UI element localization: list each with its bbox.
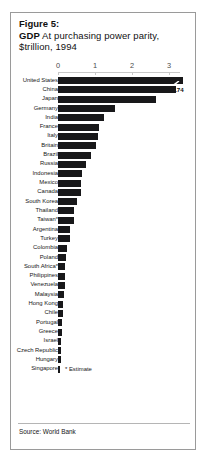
category-label: Indonesia [0,169,58,178]
bar-row: France [11,123,197,132]
category-label: Turkey [0,234,58,243]
bar [58,301,63,308]
bar-row: Hong Kong [11,300,197,309]
category-label: India [0,113,58,122]
bar-row: Philippines [11,272,197,281]
bar [58,207,74,214]
bar [58,189,81,196]
category-label: Britain [0,141,58,150]
category-label: Argentina [0,225,58,234]
bar [58,152,91,159]
figure-title-block: Figure 5: GDP At purchasing power parity… [19,18,191,53]
figure-title: GDP At purchasing power parity, [19,30,191,42]
category-label: South Africa* [0,262,58,271]
bar-plot: United States6.74ChinaJapanGermanyIndiaF… [11,76,197,374]
x-tick-mark-3 [169,72,170,75]
x-tick-label-2: 2 [130,61,134,70]
category-label: China [0,85,58,94]
bar-row: India [11,113,197,122]
category-label: Portugal [0,318,58,327]
category-label: Philippines [0,271,58,280]
bar [58,273,65,280]
source-divider [18,423,190,424]
bar-row: Canada [11,188,197,197]
x-axis: 0123 [11,61,197,75]
x-tick-mark-0 [58,72,59,75]
figure-title-rest: At purchasing power parity, [42,30,159,41]
bar [58,291,64,298]
category-label: Russia [0,159,58,168]
bar [58,124,99,131]
bar [58,161,86,168]
category-label: Colombia [0,243,58,252]
x-tick-label-1: 1 [93,61,97,70]
bar-row: United States6.74 [11,76,197,85]
category-label: Singapore [0,364,58,373]
bar-row: Colombia [11,244,197,253]
bar-row: Venezuela [11,281,197,290]
bar [58,329,62,336]
estimate-note: * Estimate [65,366,92,372]
figure-subtitle: $trillion, 1994 [19,41,191,53]
bar-row: Italy [11,132,197,141]
bar-row: Chile [11,309,197,318]
bar-row: Mexico [11,178,197,187]
category-label: Venezuela [0,280,58,289]
category-label: Mexico [0,178,58,187]
bar [58,254,66,261]
bar-row: Malaysia [11,290,197,299]
x-tick-label-3: 3 [167,61,171,70]
bar-row: Poland [11,253,197,262]
bar-row: Greece [11,327,197,336]
bar-row: Portugal [11,318,197,327]
bar [58,226,70,233]
bar [58,180,81,187]
bar-row: Israel [11,337,197,346]
figure-panel: Figure 5: GDP At purchasing power parity… [10,12,196,450]
bar [58,310,63,317]
category-label: Japan [0,94,58,103]
bar [58,86,176,93]
axis-break-marker [173,76,182,85]
bar-row: Hungary [11,355,197,364]
bar-row: Britain [11,141,197,150]
category-label: Poland [0,253,58,262]
category-label: Canada [0,187,58,196]
bar [58,338,61,345]
bar [58,319,62,326]
bar-row: Russia [11,160,197,169]
category-label: Hong Kong [0,299,58,308]
bar [58,198,77,205]
bar-row: Argentina [11,225,197,234]
x-axis-line [58,72,180,73]
category-label: Israel [0,336,58,345]
bar [58,170,82,177]
category-label: Italy [0,131,58,140]
category-label: United States [0,76,58,85]
x-tick-label-0: 0 [56,61,60,70]
category-label: Czech Republic [0,346,58,355]
bar [58,133,98,140]
bar [58,356,61,363]
source-label: Source: World Bank [19,428,76,435]
category-label: Brazil [0,150,58,159]
category-label: France [0,122,58,131]
x-tick-mark-1 [95,72,96,75]
figure-title-strong: GDP [19,30,40,41]
bar-row: Turkey [11,234,197,243]
x-tick-mark-2 [132,72,133,75]
bar-row: Czech Republic [11,346,197,355]
bar-row: Singapore [11,365,197,374]
bar-row: Thailand [11,206,197,215]
category-label: Germany [0,104,58,113]
bar [58,366,60,373]
bar-row: South Korea [11,197,197,206]
bar [58,347,61,354]
bar [58,282,65,289]
bar-row: Taiwan* [11,216,197,225]
bar-row: Indonesia [11,169,197,178]
category-label: Thailand [0,206,58,215]
category-label: South Korea [0,197,58,206]
bar [58,96,156,103]
category-label: Taiwan* [0,215,58,224]
